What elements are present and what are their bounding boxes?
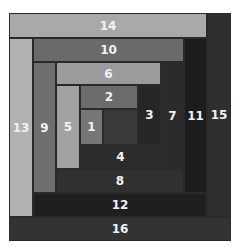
strip-1: 1 [80,109,103,145]
strip-label: 3 [145,108,153,122]
strip-11: 11 [184,38,207,193]
strip-label: 16 [112,222,129,236]
strip-2: 2 [80,85,138,109]
strip-7: 7 [161,62,184,169]
strip-label: 4 [116,150,124,164]
strip-label: 11 [187,109,204,123]
strip-14: 14 [9,13,207,38]
strip-4: 4 [80,145,161,169]
log-cabin-diagram: 14 13 10 9 6 5 2 1 3 4 7 8 11 12 15 16 [0,0,236,248]
strip-label: 6 [104,67,112,81]
strip-label: 2 [105,90,113,104]
strip-9: 9 [33,62,56,193]
strip-16: 16 [9,217,231,241]
strip-3: 3 [138,85,161,145]
strip-label: 15 [211,108,228,122]
strip-10: 10 [33,38,184,62]
strip-label: 7 [168,109,176,123]
strip-label: 9 [40,121,48,135]
center-square [103,109,138,145]
strip-label: 1 [87,120,95,134]
strip-label: 12 [112,198,129,212]
strip-12: 12 [33,193,207,217]
strip-label: 10 [100,43,117,57]
strip-label: 13 [13,121,30,135]
strip-5: 5 [56,85,80,169]
strip-13: 13 [9,38,33,217]
strip-6: 6 [56,62,161,85]
strip-8: 8 [56,169,184,193]
strip-label: 14 [100,19,117,33]
strip-label: 5 [64,120,72,134]
strip-label: 8 [116,174,124,188]
strip-15: 15 [207,13,231,217]
